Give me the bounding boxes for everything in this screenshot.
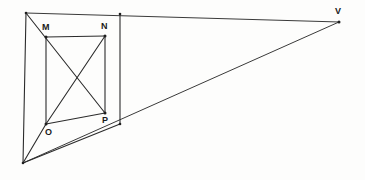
vertex-label-o: O xyxy=(45,128,52,137)
vertex-label-p: P xyxy=(102,116,108,125)
edge-top-A-to-V xyxy=(26,13,339,22)
edge-rect-M-to-N xyxy=(46,36,105,37)
vertex-dot-o xyxy=(45,123,48,126)
geometry-figure: MNOPV xyxy=(0,0,365,180)
edge-diagonal-A-M-P xyxy=(26,13,105,113)
figure-canvas xyxy=(0,0,365,180)
edge-group xyxy=(23,13,339,163)
vertex-label-n: N xyxy=(101,22,108,31)
vertex-dot-b xyxy=(119,13,122,16)
edge-ray-C-to-O xyxy=(23,124,46,163)
vertex-label-v: V xyxy=(335,7,341,16)
edge-bottom-C-to-V xyxy=(23,22,339,163)
vertex-dot-c xyxy=(22,162,25,165)
vertex-label-m: M xyxy=(42,23,50,32)
edge-rect-O-to-P xyxy=(46,113,105,124)
vertex-dot-n xyxy=(104,35,107,38)
edge-left-A-to-C xyxy=(23,13,26,163)
edge-ray-C-to-D xyxy=(23,124,120,163)
vertex-dot-m xyxy=(45,36,48,39)
vertex-dot-d xyxy=(119,123,122,126)
vertex-dot-v xyxy=(338,21,341,24)
vertex-dot-a xyxy=(25,12,28,15)
